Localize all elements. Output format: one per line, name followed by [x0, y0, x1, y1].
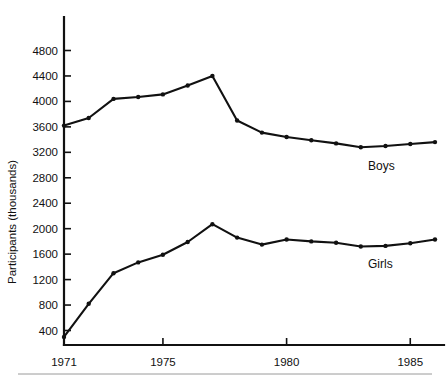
- data-point: [136, 95, 140, 99]
- data-point: [359, 244, 363, 248]
- data-point: [161, 92, 165, 96]
- y-tick-label: 2400: [32, 197, 58, 209]
- data-point: [111, 97, 115, 101]
- series-line-boys: [64, 76, 435, 147]
- data-point: [62, 335, 66, 339]
- data-point: [383, 144, 387, 148]
- x-tick-label: 1971: [51, 356, 77, 368]
- y-tick-label: 400: [39, 325, 58, 337]
- y-tick-label: 800: [39, 299, 58, 311]
- y-tick-label: 4400: [32, 70, 58, 82]
- data-point: [334, 241, 338, 245]
- y-axis-tick-labels: 4008001200160020002400280032003600400044…: [32, 45, 58, 337]
- x-tick-label: 1985: [397, 356, 423, 368]
- series-label-boys: Boys: [368, 159, 395, 173]
- y-tick-label: 4800: [32, 45, 58, 57]
- series-label-girls: Girls: [368, 257, 393, 271]
- data-point: [136, 260, 140, 264]
- data-point: [87, 116, 91, 120]
- y-tick-label: 1200: [32, 274, 58, 286]
- data-point: [408, 241, 412, 245]
- y-tick-label: 2000: [32, 223, 58, 235]
- data-point: [235, 118, 239, 122]
- data-point: [334, 141, 338, 145]
- data-point: [309, 239, 313, 243]
- data-point: [235, 235, 239, 239]
- data-point: [186, 83, 190, 87]
- x-tick-label: 1975: [150, 356, 176, 368]
- data-point: [433, 237, 437, 241]
- data-point: [284, 237, 288, 241]
- data-point: [87, 302, 91, 306]
- line-chart: 4008001200160020002400280032003600400044…: [0, 0, 446, 381]
- series-line-girls: [64, 224, 435, 337]
- y-tick-label: 2800: [32, 172, 58, 184]
- data-point: [309, 138, 313, 142]
- data-point: [210, 222, 214, 226]
- data-point: [284, 135, 288, 139]
- y-tick-label: 3200: [32, 146, 58, 158]
- data-point: [161, 253, 165, 257]
- data-point: [210, 74, 214, 78]
- data-point: [260, 130, 264, 134]
- series-group: [62, 74, 437, 339]
- data-point: [260, 242, 264, 246]
- data-point: [111, 271, 115, 275]
- y-tick-label: 4000: [32, 95, 58, 107]
- data-point: [359, 145, 363, 149]
- chart-container: 4008001200160020002400280032003600400044…: [0, 0, 446, 381]
- data-point: [186, 240, 190, 244]
- x-tick-label: 1980: [274, 356, 300, 368]
- y-axis-title: Participants (thousands): [6, 160, 18, 284]
- data-point: [62, 123, 66, 127]
- data-point: [383, 244, 387, 248]
- y-tick-label: 3600: [32, 121, 58, 133]
- data-point: [408, 142, 412, 146]
- data-point: [433, 140, 437, 144]
- y-tick-label: 1600: [32, 248, 58, 260]
- x-axis-tick-labels: 1971197519801985: [51, 356, 423, 368]
